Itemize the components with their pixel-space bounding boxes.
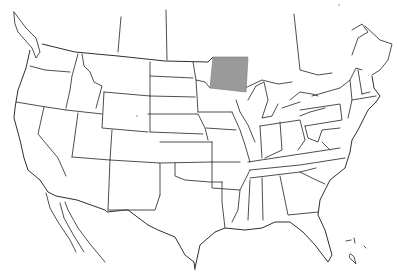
baja-peninsula [46,193,76,252]
map-dot [136,115,138,117]
gulf-coast [195,200,332,268]
atlantic-coast [320,76,380,200]
highlighted-region [210,57,248,92]
map-dot [338,4,340,6]
us-outline-map [0,0,397,274]
hawaii-islands [346,238,366,264]
mexico-border [56,196,195,270]
northern-border [42,44,213,62]
pacific-coast [14,50,56,196]
state-borders [16,54,376,228]
canada-borders [14,10,392,75]
